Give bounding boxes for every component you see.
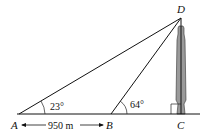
line-AD (19, 18, 181, 114)
trig-diagram: 23° 64° A B C D 950 m (0, 0, 204, 135)
angle-label-A: 23° (50, 101, 64, 112)
point-label-B: B (106, 119, 113, 131)
point-label-D: D (176, 3, 185, 15)
angle-label-B: 64° (130, 99, 144, 110)
angle-arc-A (41, 101, 45, 114)
tower-icon (176, 18, 186, 114)
distance-label: 950 m (48, 120, 74, 131)
point-label-C: C (177, 119, 185, 131)
point-label-A: A (10, 119, 18, 131)
angle-arc-B (120, 101, 127, 114)
line-BD (111, 18, 181, 114)
